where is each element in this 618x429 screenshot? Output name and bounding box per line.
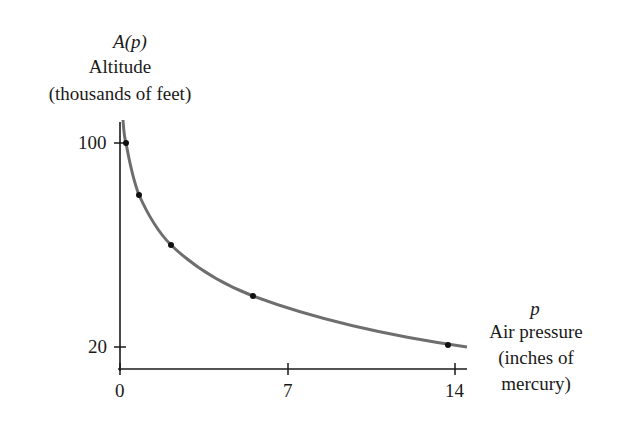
data-point bbox=[250, 293, 256, 299]
plot-area bbox=[0, 0, 618, 429]
altitude-curve bbox=[123, 120, 467, 347]
data-point bbox=[445, 342, 451, 348]
data-point bbox=[168, 242, 174, 248]
data-point bbox=[136, 192, 142, 198]
data-point bbox=[123, 140, 129, 146]
